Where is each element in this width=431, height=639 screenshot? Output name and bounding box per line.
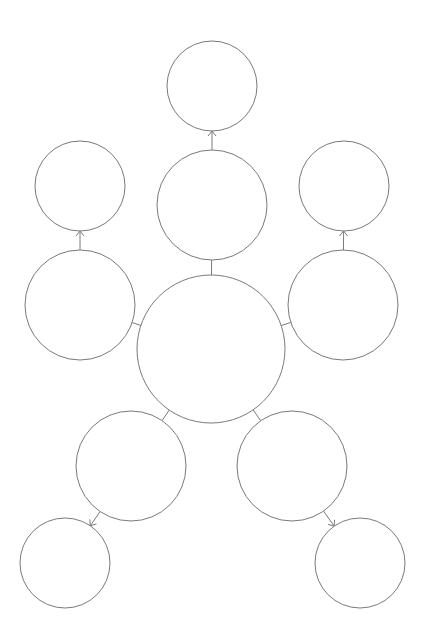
connector-lower-right-bottom-right xyxy=(324,511,335,526)
bubble-left-top[interactable] xyxy=(35,141,125,231)
connector-center-left-mid xyxy=(132,323,141,326)
bubble-left-mid[interactable] xyxy=(25,250,135,360)
bubble-nodes xyxy=(20,41,405,608)
bubble-right-mid[interactable] xyxy=(288,250,398,360)
bubble-right-top[interactable] xyxy=(299,141,389,231)
bubble-top-mid[interactable] xyxy=(157,150,267,260)
bubble-bottom-right[interactable] xyxy=(315,518,405,608)
bubble-map-diagram xyxy=(0,0,431,639)
bubble-top[interactable] xyxy=(167,41,257,131)
connector-center-lower-right xyxy=(253,410,261,421)
bubble-bottom-left[interactable] xyxy=(20,518,110,608)
connector-lower-left-bottom-left xyxy=(90,511,100,525)
diagram-canvas xyxy=(0,0,431,639)
bubble-lower-left[interactable] xyxy=(76,411,186,521)
bubble-lower-right[interactable] xyxy=(237,411,347,521)
connector-center-right-mid xyxy=(281,322,291,325)
bubble-center[interactable] xyxy=(137,275,285,423)
connector-center-lower-left xyxy=(162,410,169,421)
